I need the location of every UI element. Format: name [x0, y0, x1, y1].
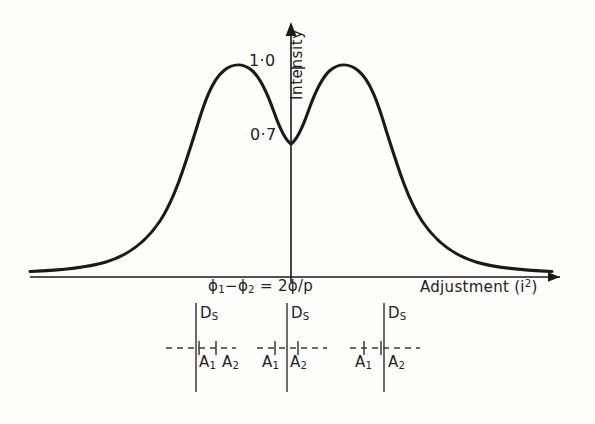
inset-right-a2-label: A2: [388, 353, 405, 371]
x-axis-title-text: Adjustment (i: [420, 278, 525, 296]
phase-sub-1: 1: [218, 284, 225, 295]
inset-right-a1-sub: 1: [365, 360, 372, 371]
inset-left-a2-letter: A: [222, 353, 232, 371]
inset-right-a2-letter: A: [388, 353, 398, 371]
x-axis-title-close: ): [532, 278, 538, 296]
inset-center-ds-label: DS: [291, 304, 309, 322]
inset-left-a1-label: A1: [199, 353, 216, 371]
inset-right-ds-letter: D: [388, 304, 400, 322]
phase-equals: = 2: [255, 277, 288, 295]
inset-center-ds-sub: S: [303, 311, 310, 322]
inset-right-ds-label: DS: [388, 304, 406, 322]
inset-center-a2-label: A2: [290, 353, 307, 371]
phase-phi-1: ϕ: [208, 277, 218, 295]
inset-left-ds-label: DS: [200, 304, 218, 322]
phase-phi-2: ϕ: [238, 277, 248, 295]
inset-center-a1-sub: 1: [272, 360, 279, 371]
y-tick-label-0-7: 0·7: [250, 125, 277, 144]
phase-phi-3: ϕ: [288, 277, 298, 295]
phase-over-p: /p: [298, 277, 313, 295]
inset-left-ds-letter: D: [200, 304, 212, 322]
inset-center-ds-letter: D: [291, 304, 303, 322]
inset-center-a2-sub: 2: [300, 360, 307, 371]
inset-left-a1-sub: 1: [209, 360, 216, 371]
y-axis-title: Intensity: [288, 29, 306, 100]
inset-left-a2-sub: 2: [232, 360, 239, 371]
inset-center-a1-label: A1: [262, 353, 279, 371]
inset-center-a2-letter: A: [290, 353, 300, 371]
x-axis-arrowhead: [548, 272, 560, 282]
intensity-figure: 1·0 0·7 Intensity ϕ1−ϕ2 = 2ϕ/p Adjustmen…: [0, 0, 595, 424]
inset-right-ds-sub: S: [400, 311, 407, 322]
inset-right-a2-sub: 2: [398, 360, 405, 371]
phase-sub-2: 2: [248, 284, 255, 295]
inset-right-a1-letter: A: [355, 353, 365, 371]
x-axis-title: Adjustment (i2): [420, 278, 538, 296]
x-axis-title-exponent: 2: [525, 278, 532, 289]
phase-minus: −: [225, 277, 238, 295]
inset-right-a1-label: A1: [355, 353, 372, 371]
y-tick-label-1-0: 1·0: [249, 51, 276, 70]
phase-difference-annotation: ϕ1−ϕ2 = 2ϕ/p: [208, 277, 313, 295]
inset-left-a2-label: A2: [222, 353, 239, 371]
inset-center-a1-letter: A: [262, 353, 272, 371]
inset-left-ds-sub: S: [212, 311, 219, 322]
inset-right-diagram: [350, 303, 420, 392]
inset-left-a1-letter: A: [199, 353, 209, 371]
